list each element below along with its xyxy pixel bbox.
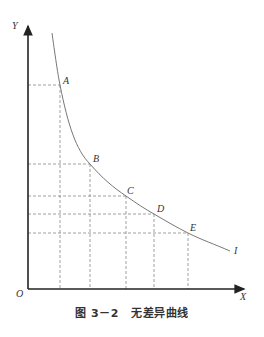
y-axis-label: Y [12,20,19,31]
origin-label: O [16,288,23,299]
point-e-label: E [189,222,196,233]
point-b-label: B [93,153,99,164]
point-d-label: D [156,203,165,214]
x-axis-label: X [239,291,247,300]
figure-number: 图 3－2 [75,307,119,320]
point-c-label: C [127,185,134,196]
indifference-curve [52,33,230,251]
indifference-curve-diagram: Y X O A B C D E I [0,0,264,300]
curve-label: I [233,245,238,256]
point-a-label: A [62,75,70,86]
figure-title: 无差异曲线 [131,307,189,320]
guide-lines [28,85,188,289]
figure-caption: 图 3－2 无差异曲线 [0,304,264,320]
